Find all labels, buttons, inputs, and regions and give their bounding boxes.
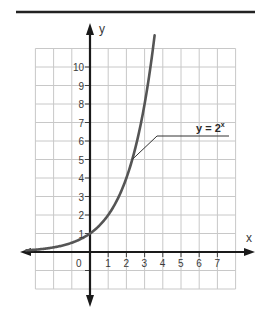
y-tick-label: 5 bbox=[78, 155, 84, 166]
y-tick-label: 4 bbox=[78, 173, 84, 184]
x-tick-label: 2 bbox=[123, 258, 129, 269]
x-tick-label: 7 bbox=[214, 258, 220, 269]
y-tick-labels: 12345678910 bbox=[73, 62, 85, 240]
y-axis-label: y bbox=[99, 22, 105, 36]
axis-ticks bbox=[85, 67, 217, 271]
y-axis-down-arrow-icon bbox=[86, 295, 94, 307]
equation-exponent: x bbox=[221, 121, 225, 128]
x-tick-labels: 01234567 bbox=[76, 258, 220, 269]
y-tick-label: 6 bbox=[78, 136, 84, 147]
x-tick-label: 6 bbox=[196, 258, 202, 269]
y-tick-label: 9 bbox=[78, 81, 84, 92]
equation-label: y = 2x bbox=[196, 121, 225, 134]
x-tick-label: 5 bbox=[178, 258, 184, 269]
x-axis-right-arrow-icon bbox=[244, 248, 255, 256]
y-tick-label: 3 bbox=[78, 192, 84, 203]
x-tick-label: 1 bbox=[105, 258, 111, 269]
x-tick-label: 3 bbox=[142, 258, 148, 269]
y-axis-up-arrow-icon bbox=[86, 23, 94, 35]
y-tick-label: 10 bbox=[73, 62, 85, 73]
x-tick-label: 4 bbox=[160, 258, 166, 269]
x-tick-label: 0 bbox=[76, 258, 82, 269]
y-tick-label: 1 bbox=[78, 229, 84, 240]
y-tick-label: 7 bbox=[78, 118, 84, 129]
y-tick-label: 8 bbox=[78, 99, 84, 110]
x-axis-label: x bbox=[246, 231, 252, 245]
exponential-graph: 01234567 12345678910 x y y = 2x bbox=[0, 0, 265, 324]
y-tick-label: 2 bbox=[78, 210, 84, 221]
equation-text: y = 2 bbox=[196, 122, 221, 134]
